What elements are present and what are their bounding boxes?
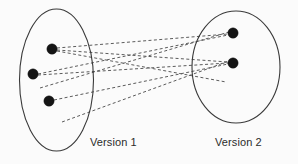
mapping-links-group <box>38 32 229 122</box>
node-dot-v2-n1 <box>228 28 238 38</box>
node-dot-v2-n2 <box>228 58 238 68</box>
mapping-line <box>57 34 228 48</box>
node-dot-v1-n3 <box>44 96 54 106</box>
mapping-line <box>57 51 226 82</box>
set-label-version-2: Version 2 <box>215 137 262 148</box>
mapping-line <box>40 32 229 88</box>
node-dot-v1-n2 <box>28 69 38 79</box>
set-nodes-group <box>28 28 238 106</box>
node-dot-v1-n1 <box>47 44 57 54</box>
mapping-line <box>62 61 229 122</box>
version-mapping-figure: Version 1 Version 2 <box>0 0 298 164</box>
mapping-line <box>38 35 228 74</box>
set-label-version-1: Version 1 <box>90 137 137 148</box>
mapping-line <box>57 50 228 62</box>
mapping-line <box>54 64 228 100</box>
set-boundary-version-1 <box>20 9 94 151</box>
